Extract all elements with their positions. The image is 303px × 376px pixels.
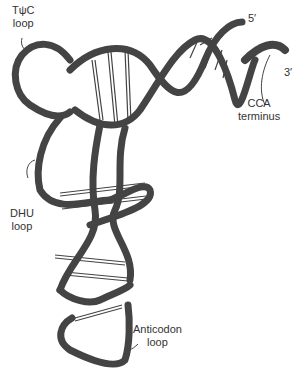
cca-terminus-label: CCA terminus bbox=[238, 97, 280, 123]
trna-diagram bbox=[0, 0, 303, 376]
five-prime-label: 5′ bbox=[248, 12, 256, 25]
anticodon-loop-label: Anticodon loop bbox=[133, 323, 182, 349]
cca-terminus-strand bbox=[245, 45, 285, 60]
tpsic-loop-label: TψC loop bbox=[12, 4, 35, 30]
acceptor-t-helix bbox=[70, 22, 255, 126]
three-prime-label: 3′ bbox=[284, 66, 292, 79]
anticodon-loop-strand bbox=[61, 305, 130, 364]
tpsic-loop-strand bbox=[15, 44, 70, 116]
dhu-loop-label: DHU loop bbox=[10, 207, 34, 233]
